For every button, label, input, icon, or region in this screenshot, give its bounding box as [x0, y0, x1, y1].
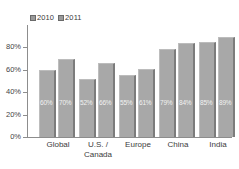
chart-legend: 2010 2011 — [30, 14, 84, 22]
bar-2010-1[interactable]: 60% — [39, 70, 56, 137]
y-tick-label: 60% — [0, 66, 21, 74]
bar-2010-2[interactable]: 52% — [79, 79, 96, 137]
bar-group: 79%84% — [159, 25, 197, 137]
y-tick-mark — [23, 137, 27, 138]
bar-value-label: 60% — [40, 99, 52, 106]
bar-2011-3[interactable]: 61% — [138, 69, 155, 137]
category-label-5: India — [193, 140, 239, 150]
legend-item-2011: 2011 — [58, 14, 84, 22]
bar-group: 60%70% — [39, 25, 77, 137]
bar-2011-2[interactable]: 66% — [98, 63, 115, 137]
bar-2010-5[interactable]: 85% — [199, 42, 216, 137]
legend-label-2011: 2011 — [65, 14, 84, 22]
plot-area: 60%70%52%66%55%61%79%84%85%89% — [27, 25, 232, 137]
legend-item-2010: 2010 — [30, 14, 56, 22]
legend-swatch-2010-icon — [30, 15, 36, 21]
bar-2011-5[interactable]: 89% — [218, 37, 235, 137]
bar-2011-4[interactable]: 84% — [178, 43, 195, 137]
bar-2011-1[interactable]: 70% — [58, 59, 75, 137]
bar-value-label: 89% — [219, 99, 231, 106]
bar-group: 55%61% — [119, 25, 157, 137]
bar-value-label: 55% — [120, 99, 132, 106]
bar-value-label: 85% — [200, 99, 212, 106]
bar-2010-3[interactable]: 55% — [119, 75, 136, 137]
bar-value-label: 66% — [99, 99, 111, 106]
bar-group: 85%89% — [199, 25, 237, 137]
bar-value-label: 79% — [160, 99, 172, 106]
y-tick-label: 0% — [0, 133, 21, 141]
y-tick-label: 20% — [0, 111, 21, 119]
bar-value-label: 70% — [59, 99, 71, 106]
x-axis-line — [27, 137, 232, 138]
legend-swatch-2011-icon — [58, 15, 64, 21]
legend-label-2010: 2010 — [37, 14, 56, 22]
y-tick-label: 40% — [0, 88, 21, 96]
bar-value-label: 61% — [139, 99, 151, 106]
bar-value-label: 84% — [179, 99, 191, 106]
y-tick-label: 80% — [0, 43, 21, 51]
bar-2010-4[interactable]: 79% — [159, 49, 176, 137]
bar-chart: 2010 2011 0%20%40%60%80% 60%70%52%66%55%… — [0, 0, 239, 169]
bar-group: 52%66% — [79, 25, 117, 137]
bar-value-label: 52% — [80, 99, 92, 106]
